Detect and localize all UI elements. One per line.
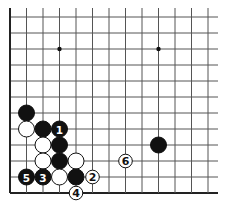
black-stone bbox=[35, 121, 51, 137]
go-board: 165324 bbox=[0, 0, 227, 206]
move-number: 3 bbox=[39, 172, 46, 184]
move-number: 2 bbox=[89, 171, 97, 184]
black-stone-move-3: 3 bbox=[35, 169, 51, 185]
white-stone bbox=[19, 121, 35, 137]
white-stone bbox=[35, 153, 51, 169]
white-stone bbox=[68, 153, 84, 169]
black-stone-move-5: 5 bbox=[19, 169, 35, 185]
black-stone bbox=[52, 153, 68, 169]
black-stone bbox=[19, 105, 35, 121]
black-stone-move-1: 1 bbox=[52, 121, 68, 137]
star-point bbox=[156, 47, 160, 51]
move-number: 5 bbox=[23, 172, 30, 184]
star-point bbox=[57, 47, 61, 51]
white-stone-move-6: 6 bbox=[119, 154, 133, 168]
move-number: 1 bbox=[56, 124, 63, 136]
black-stone bbox=[68, 169, 84, 185]
black-stone bbox=[151, 137, 167, 153]
black-stone bbox=[52, 137, 68, 153]
white-stone-move-2: 2 bbox=[86, 170, 100, 184]
white-stone bbox=[35, 137, 51, 153]
white-stone bbox=[52, 169, 68, 185]
move-number: 6 bbox=[122, 155, 130, 168]
move-number: 4 bbox=[72, 187, 80, 200]
white-stone-move-4: 4 bbox=[69, 186, 83, 200]
